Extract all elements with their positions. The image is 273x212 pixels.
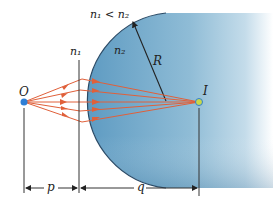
object-label: O	[19, 85, 29, 99]
incident-ray-arrowheads	[60, 84, 69, 117]
diagram-canvas: n₁ < n₂ n₁ n₂ R O I p q	[0, 0, 273, 212]
p-label: p	[47, 180, 55, 194]
refraction-diagram: n₁ < n₂ n₁ n₂ R O I p q	[0, 0, 273, 212]
condition-label: n₁ < n₂	[90, 8, 129, 21]
image-label: I	[202, 84, 208, 98]
radius-label: R	[152, 54, 162, 68]
incident-rays	[24, 79, 82, 122]
image-point	[196, 99, 203, 106]
n1-label: n₁	[70, 45, 82, 58]
q-label: q	[137, 180, 145, 194]
n2-label: n₂	[114, 44, 126, 57]
object-point	[21, 99, 28, 106]
